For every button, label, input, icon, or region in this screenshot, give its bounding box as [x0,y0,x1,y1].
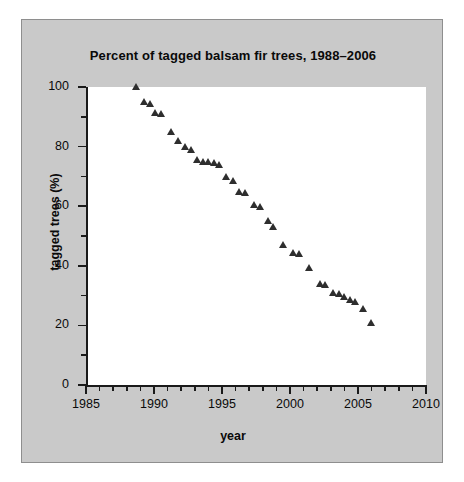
x-tick-minor [262,386,264,391]
x-tick-label: 1990 [124,397,184,411]
data-point-marker [305,264,313,271]
x-tick-minor [180,386,182,391]
data-point-marker [241,189,249,196]
x-axis-line [86,385,427,387]
data-point-marker [269,223,277,230]
x-tick-minor [248,386,250,391]
chart-figure-panel: Percent of tagged balsam fir trees, 1988… [21,19,443,463]
x-tick-major [425,386,427,394]
x-tick-minor [398,386,400,391]
y-tick-major [78,265,86,267]
y-tick-major [78,325,86,327]
x-tick-minor [344,386,346,391]
y-tick-minor [81,176,86,178]
y-tick-minor [81,116,86,118]
y-tick-minor [81,295,86,297]
data-point-marker [187,146,195,153]
x-tick-minor [276,386,278,391]
data-point-marker [215,161,223,168]
y-axis-line [86,87,88,386]
data-point-marker [359,305,367,312]
y-tick-minor [81,235,86,237]
y-tick-label: 0 [29,377,69,391]
y-axis-title: tagged trees (%) [48,112,62,332]
y-tick-major [78,205,86,207]
x-tick-label: 2000 [260,397,320,411]
x-axis-title: year [22,429,444,443]
data-point-marker [157,110,165,117]
x-tick-minor [412,386,414,391]
data-point-marker [351,298,359,305]
data-point-marker [321,281,329,288]
x-tick-minor [167,386,169,391]
y-tick-major [78,86,86,88]
data-point-marker [167,128,175,135]
x-tick-minor [384,386,386,391]
chart-title: Percent of tagged balsam fir trees, 1988… [22,48,444,63]
x-tick-major [357,386,359,394]
x-tick-minor [140,386,142,391]
x-tick-label: 2005 [328,397,388,411]
y-tick-label: 100 [29,79,69,93]
x-tick-minor [112,386,114,391]
x-tick-label: 1995 [192,397,252,411]
scan-artifact [0,466,464,482]
x-tick-minor [371,386,373,391]
x-tick-major [221,386,223,394]
x-tick-minor [235,386,237,391]
data-point-marker [229,177,237,184]
data-point-marker [132,83,140,90]
data-point-marker [256,203,264,210]
y-tick-major [78,146,86,148]
data-point-marker [367,319,375,326]
x-tick-label: 1985 [56,397,116,411]
x-tick-minor [303,386,305,391]
plot-area [86,87,426,385]
x-tick-major [153,386,155,394]
x-tick-minor [316,386,318,391]
y-tick-minor [81,354,86,356]
x-tick-minor [208,386,210,391]
data-point-marker [146,100,154,107]
x-tick-minor [194,386,196,391]
data-point-marker [279,241,287,248]
x-tick-major [289,386,291,394]
x-tick-minor [99,386,101,391]
x-tick-label: 2010 [396,397,456,411]
x-tick-minor [330,386,332,391]
x-tick-minor [126,386,128,391]
data-point-marker [295,250,303,257]
x-tick-major [85,386,87,394]
